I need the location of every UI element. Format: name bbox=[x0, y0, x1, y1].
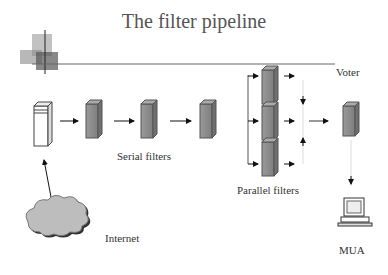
serial-filter-1 bbox=[86, 100, 102, 138]
voter-box bbox=[343, 102, 359, 136]
arrow-internet-to-server bbox=[44, 160, 51, 197]
server-icon bbox=[34, 102, 52, 146]
parallel-filter-2 bbox=[262, 102, 278, 140]
serial-filter-2 bbox=[141, 100, 157, 138]
parallel-filter-3 bbox=[262, 138, 278, 176]
slide-title: The filter pipeline bbox=[0, 10, 388, 33]
mua-label: MUA bbox=[339, 244, 365, 256]
computer-icon bbox=[338, 198, 372, 226]
internet-label: Internet bbox=[105, 232, 139, 244]
cloud-icon bbox=[26, 195, 90, 237]
diagram-canvas bbox=[0, 0, 388, 275]
decorative-logo bbox=[20, 30, 58, 74]
voter-label: Voter bbox=[336, 66, 360, 78]
serial-filter-3 bbox=[200, 100, 216, 138]
slide: The filter pipeline Voter Serial filters… bbox=[0, 0, 388, 275]
parallel-filters-label: Parallel filters bbox=[237, 184, 299, 196]
serial-filters-label: Serial filters bbox=[117, 150, 171, 162]
parallel-filter-1 bbox=[262, 66, 278, 104]
